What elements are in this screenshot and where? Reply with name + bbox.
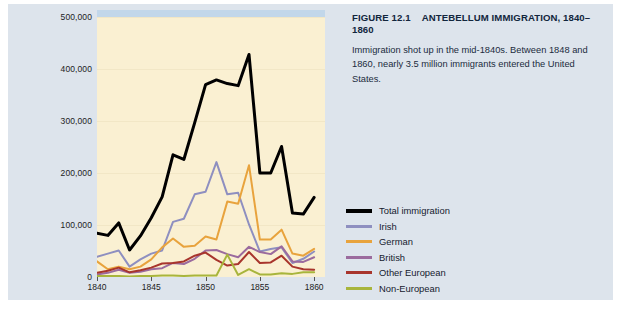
legend-label: German [379,236,413,247]
x-axis-tick [260,277,261,281]
legend-swatch-icon [346,209,372,214]
x-axis: 18401845185018551860 [97,277,325,297]
x-axis-tick-label: 1850 [196,282,215,292]
x-axis-tick-label: 1860 [305,282,324,292]
legend-swatch-icon [346,240,372,243]
legend-label: Total immigration [379,205,450,216]
legend-item[interactable]: Total immigration [346,203,546,219]
caption-block: FIGURE 12.1 ANTEBELLUM IMMIGRATION, 1840… [352,12,604,86]
x-axis-tick [206,277,207,281]
immigration-line-chart: 0100,000200,000300,000400,000500,000 184… [22,10,327,295]
figure-root: 0100,000200,000300,000400,000500,000 184… [0,0,621,311]
y-axis-tick-label: 500,000 [61,12,92,22]
legend-item[interactable]: German [346,234,546,250]
figure-caption: Immigration shot up in the mid-1840s. Be… [352,43,604,86]
y-axis-tick-label: 300,000 [61,116,92,126]
x-axis-tick-label: 1845 [142,282,161,292]
y-axis-labels: 0100,000200,000300,000400,000500,000 [22,10,92,277]
legend-swatch-icon [346,225,372,228]
x-axis-tick [151,277,152,281]
y-axis-tick-label: 200,000 [61,168,92,178]
legend-label: British [379,252,405,263]
legend-label: Irish [379,221,397,232]
legend-item[interactable]: Irish [346,219,546,235]
legend-item[interactable]: Non-European [346,281,546,297]
legend-label: Non-European [379,283,440,294]
x-axis-tick-label: 1840 [88,282,107,292]
figure-label: FIGURE 12.1 [352,12,411,23]
legend-item[interactable]: British [346,250,546,266]
legend-swatch-icon [346,256,372,259]
figure-title: FIGURE 12.1 ANTEBELLUM IMMIGRATION, 1840… [352,12,604,36]
chart-legend: Total immigrationIrishGermanBritishOther… [346,203,546,296]
x-axis-tick [314,277,315,281]
legend-swatch-icon [346,287,372,290]
legend-label: Other European [379,267,446,278]
y-axis-tick-label: 100,000 [61,220,92,230]
plot-area [97,10,325,277]
legend-swatch-icon [346,271,372,274]
legend-item[interactable]: Other European [346,265,546,281]
y-axis-tick-label: 0 [87,272,92,282]
x-axis-tick [97,277,98,281]
y-axis-tick-label: 400,000 [61,64,92,74]
x-axis-tick-label: 1855 [250,282,269,292]
series-line [97,54,314,250]
series-lines [97,10,325,277]
